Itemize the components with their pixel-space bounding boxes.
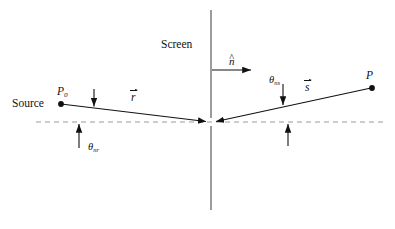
vector-s-symbol: s <box>305 81 309 93</box>
angle-nr-subscript: nr <box>93 146 99 153</box>
point-p0-label: P0 <box>57 86 68 99</box>
point-p0-symbol: P <box>57 85 64 97</box>
n-hat-wrapper: ^ n <box>229 56 235 67</box>
point-p0-subscript: 0 <box>64 91 68 99</box>
field-point-dot <box>369 85 375 91</box>
hat-accent-icon: ^ <box>229 53 234 63</box>
diffraction-geometry-figure: Source P0 P Screen ^ n r s θnr θns <box>0 0 395 229</box>
angle-ns-subscript: ns <box>274 79 280 86</box>
point-p-label: P <box>366 70 373 82</box>
vector-arrow-accent-icon <box>130 90 137 91</box>
angle-ns-label: θns <box>269 75 280 86</box>
vector-r-symbol: r <box>131 91 135 103</box>
vector-s-label: s <box>305 82 309 94</box>
angle-nr-label: θnr <box>88 142 99 153</box>
source-point-dot <box>58 101 64 107</box>
vector-r-wrapper: r <box>131 92 135 104</box>
figure-canvas <box>0 0 395 229</box>
vector-arrow-accent-icon <box>304 80 311 81</box>
incident-ray-r <box>61 104 206 122</box>
source-label: Source <box>12 98 44 110</box>
diffracted-ray-s <box>216 88 371 122</box>
vector-r-label: r <box>131 92 135 104</box>
screen-label: Screen <box>161 39 192 51</box>
vector-s-wrapper: s <box>305 82 309 94</box>
normal-vector-label: ^ n <box>229 56 235 67</box>
